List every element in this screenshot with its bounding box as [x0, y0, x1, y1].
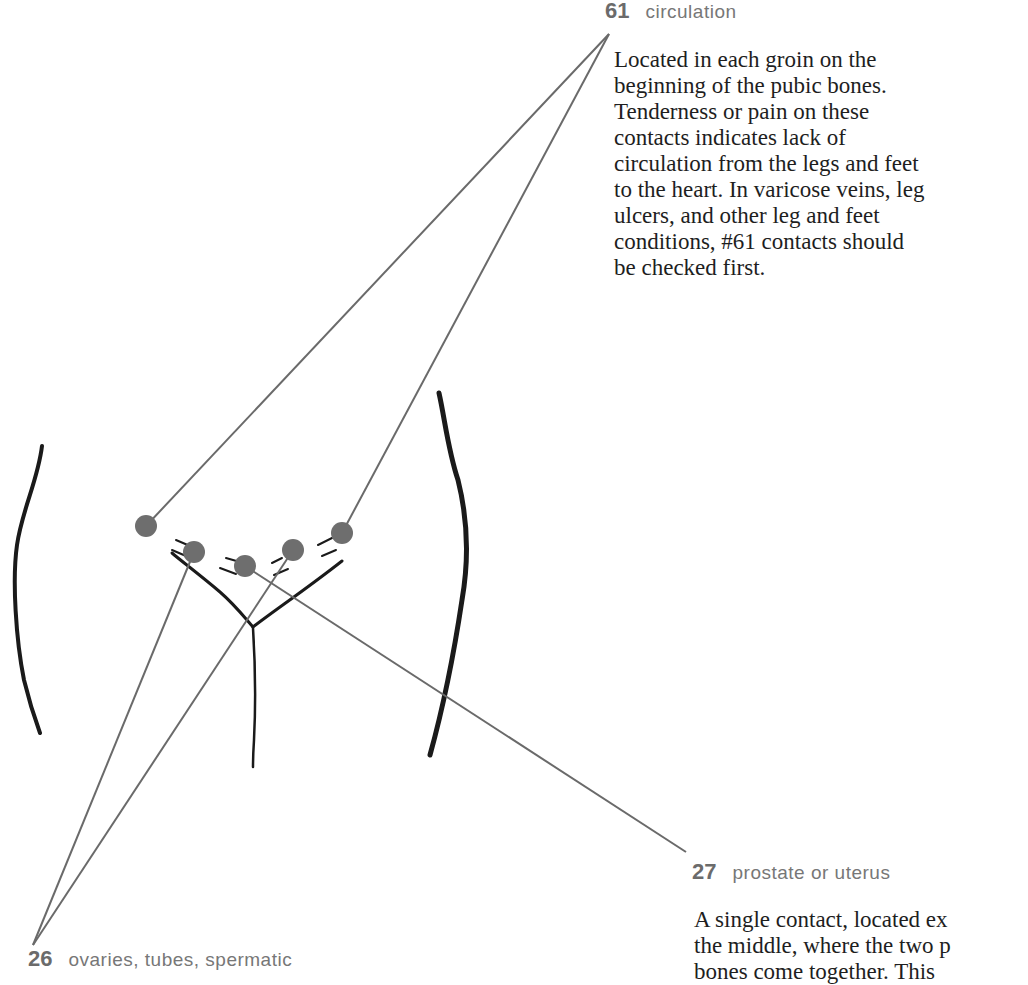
- dash-mark: [272, 558, 282, 563]
- desc-line: circulation from the legs and feet: [614, 151, 924, 177]
- desc-line: Tenderness or pain on these: [614, 99, 924, 125]
- contact-26-left[interactable]: [183, 541, 205, 563]
- dash-mark: [322, 550, 336, 556]
- point-26-number: 26: [28, 946, 52, 971]
- point-61-number: 61: [605, 0, 629, 23]
- body-outline: [15, 393, 467, 767]
- desc-line: conditions, #61 contacts should: [614, 229, 924, 255]
- desc-line: A single contact, located ex: [694, 907, 951, 933]
- point-61-description: Located in each groin on the beginning o…: [614, 47, 924, 281]
- desc-line: ulcers, and other leg and feet: [614, 203, 924, 229]
- point-27-label: 27prostate or uterus: [692, 859, 890, 885]
- desc-line: bones come together. This: [694, 959, 951, 985]
- desc-line: to the heart. In varicose veins, leg: [614, 177, 924, 203]
- point-27-number: 27: [692, 859, 716, 884]
- desc-line: Located in each groin on the: [614, 47, 924, 73]
- left-hip-outline: [15, 446, 42, 733]
- point-27-name: prostate or uterus: [732, 862, 890, 883]
- dash-mark: [220, 568, 236, 574]
- desc-line: the middle, where the two p: [694, 933, 951, 959]
- point-26-label: 26ovaries, tubes, spermatic: [28, 946, 292, 972]
- contact-61-left[interactable]: [135, 515, 157, 537]
- point-27-description: A single contact, located ex the middle,…: [694, 907, 951, 985]
- leader-27: [245, 566, 686, 852]
- point-61-label: 61circulation: [605, 0, 737, 24]
- leader-61-right: [342, 34, 609, 533]
- dash-mark: [318, 538, 332, 545]
- right-hip-outline: [430, 393, 467, 755]
- leader-61-left: [146, 34, 609, 526]
- midline: [253, 628, 255, 767]
- contact-26-right[interactable]: [282, 539, 304, 561]
- desc-line: beginning of the pubic bones.: [614, 73, 924, 99]
- right-groin-line: [253, 561, 342, 627]
- point-26-name: ovaries, tubes, spermatic: [68, 949, 292, 970]
- leader-26-left: [33, 552, 194, 945]
- leader-lines: [33, 34, 686, 945]
- desc-line: be checked first.: [614, 255, 924, 281]
- contact-dots: [135, 515, 353, 577]
- point-61-name: circulation: [645, 1, 736, 22]
- desc-line: contacts indicates lack of: [614, 125, 924, 151]
- contact-27[interactable]: [234, 555, 256, 577]
- contact-61-right[interactable]: [331, 522, 353, 544]
